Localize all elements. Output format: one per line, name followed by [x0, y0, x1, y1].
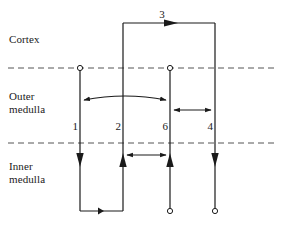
limb-6-bottom-circle [167, 208, 172, 213]
zone-label-cortex: Cortex [9, 33, 40, 46]
limb-2-up-arrowhead [119, 153, 126, 167]
cortex-connector-3-arrowhead [164, 19, 178, 26]
limb-label-6: 6 [154, 120, 168, 132]
inner-medulla-bottom-connector-arrowhead [98, 208, 104, 215]
exchange-1-to-6-arrow [84, 96, 166, 100]
limb-6-top-circle [167, 65, 172, 70]
diagram-canvas: Cortex Outer medulla Inner medulla 1 2 6… [0, 0, 282, 227]
zone-label-inner-medulla: Inner medulla [9, 160, 45, 186]
limb-label-2: 2 [107, 120, 121, 132]
limb-4-bottom-circle [212, 208, 217, 213]
cortex-connector-3-group [123, 19, 215, 26]
limb-lines [80, 23, 215, 211]
inner-medulla-bottom-connector-group [80, 208, 123, 215]
terminal-circles [77, 65, 217, 213]
limb-6-up-arrowhead [166, 153, 173, 167]
limb-1-down-arrowhead [76, 153, 83, 167]
limb-label-1: 1 [64, 120, 78, 132]
limb-1-top-circle [77, 65, 82, 70]
limb-4-down-arrowhead [211, 153, 218, 167]
zone-label-outer-medulla: Outer medulla [9, 90, 45, 116]
exchange-arrows [84, 96, 211, 155]
connector-label-3: 3 [155, 8, 169, 20]
limb-label-4: 4 [199, 120, 213, 132]
zone-boundaries [8, 68, 275, 143]
